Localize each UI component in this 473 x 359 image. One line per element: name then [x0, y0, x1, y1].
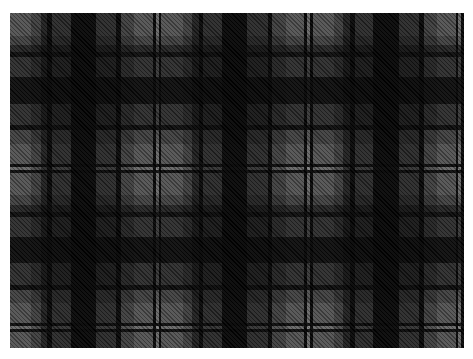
tartan-fabric	[10, 13, 464, 348]
weft-stripes	[10, 13, 464, 348]
